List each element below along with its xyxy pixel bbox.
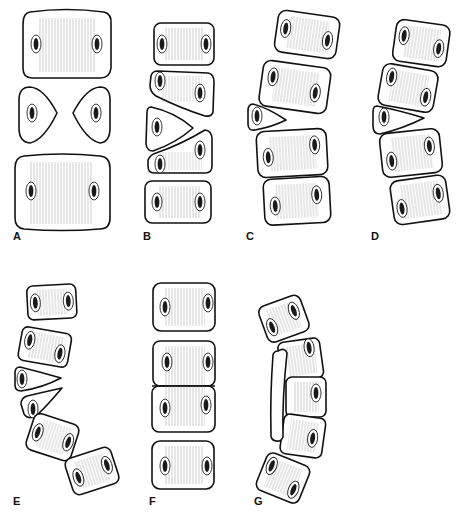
panel-label-d: D — [371, 230, 379, 242]
panel-label-g: G — [254, 495, 263, 507]
vertebral-anomaly-figure: A B C D E F G — [0, 0, 462, 518]
panel-g-drawing — [254, 293, 326, 505]
panel-label-c: C — [246, 230, 254, 242]
panel-e-drawing — [15, 284, 121, 497]
panel-c-drawing — [248, 9, 341, 225]
panel-label-a: A — [13, 230, 21, 242]
panel-label-b: B — [143, 230, 151, 242]
panel-d-drawing — [373, 19, 451, 226]
panel-b-drawing — [145, 23, 214, 223]
figure-drawing — [0, 0, 462, 518]
panel-label-e: E — [13, 495, 20, 507]
panel-f-drawing — [152, 283, 215, 489]
panel-a-drawing — [15, 10, 111, 231]
panel-label-f: F — [149, 495, 156, 507]
